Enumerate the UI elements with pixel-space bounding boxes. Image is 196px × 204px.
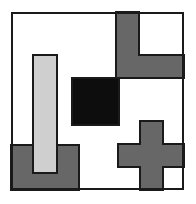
geometric-figure <box>0 0 196 204</box>
figure-canvas <box>0 0 196 204</box>
black-square <box>72 78 119 125</box>
light-gray-vertical-bar <box>33 55 57 173</box>
